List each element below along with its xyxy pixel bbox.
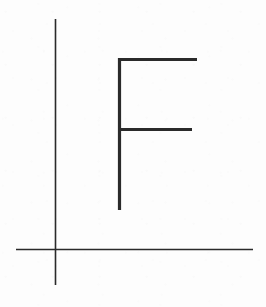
figure-drawing: [0, 0, 266, 307]
figure-canvas: [0, 0, 266, 307]
figure-background: [0, 0, 266, 307]
